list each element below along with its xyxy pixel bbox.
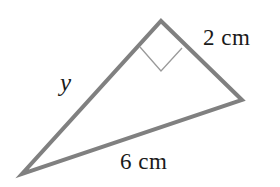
right-angle-marker-icon [140, 47, 182, 71]
side-length-label-y: y [60, 70, 71, 95]
geometry-figure: 2 cm 6 cm y [0, 0, 280, 187]
side-length-label-2cm: 2 cm [203, 26, 250, 49]
side-length-label-6cm: 6 cm [120, 150, 167, 173]
